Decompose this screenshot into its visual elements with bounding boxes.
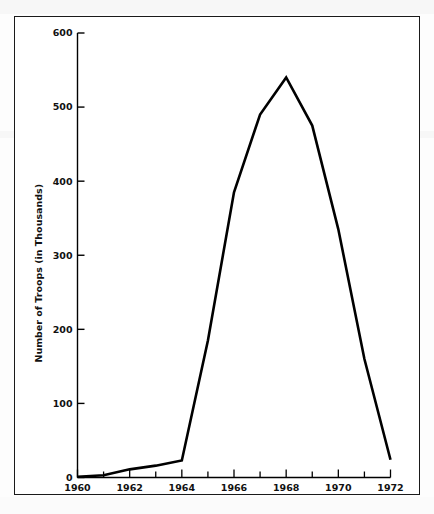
y-axis-tick-label: 100 <box>53 398 73 409</box>
scanned-page: 0100200300400500600 19601962196419661968… <box>0 0 434 514</box>
y-axis-tick-label: 400 <box>53 176 73 187</box>
y-axis: 0100200300400500600 <box>53 27 85 483</box>
y-axis-title-group: Number of Troops (in Thousands) <box>33 184 44 363</box>
x-axis-tick-label: 1964 <box>169 482 196 493</box>
x-axis-tick-label: 1970 <box>325 482 352 493</box>
x-axis-tick-label: 1968 <box>273 482 300 493</box>
x-axis-tick-label: 1972 <box>377 482 403 493</box>
y-axis-title: Number of Troops (in Thousands) <box>33 184 44 363</box>
y-axis-tick-label: 300 <box>53 250 73 261</box>
y-axis-tick-label: 200 <box>53 324 73 335</box>
line-chart: 0100200300400500600 19601962196419661968… <box>0 0 434 514</box>
data-series-group <box>78 77 391 476</box>
y-axis-tick-label: 600 <box>53 27 73 38</box>
y-axis-tick-label: 500 <box>53 101 73 112</box>
data-line <box>78 77 391 476</box>
x-axis-tick-label: 1962 <box>116 482 142 493</box>
x-axis-tick-label: 1960 <box>64 482 91 493</box>
x-axis-tick-label: 1966 <box>221 482 248 493</box>
